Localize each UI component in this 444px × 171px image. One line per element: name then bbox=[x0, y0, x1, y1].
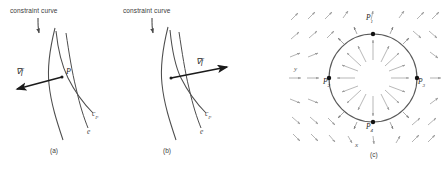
constraint-curve-label-a: constraint curve bbox=[10, 8, 57, 15]
point-label-p3-sub: 3 bbox=[423, 83, 426, 88]
curve-label-e-a: e bbox=[87, 128, 90, 136]
panel-caption-a: (a) bbox=[50, 148, 58, 155]
gradient-label-b: ∇f bbox=[196, 58, 203, 66]
curve-label-e-b: e bbox=[200, 128, 203, 136]
y-axis-label-c: y bbox=[294, 66, 297, 73]
curve-label-cp-b-sub: P bbox=[208, 115, 211, 120]
panel-caption-b: (b) bbox=[163, 148, 171, 155]
point-label-a: P bbox=[66, 68, 71, 76]
point-p-marker-a bbox=[61, 76, 64, 79]
curve-label-cp-a-sub: P bbox=[95, 115, 98, 120]
point-p-marker-b bbox=[170, 77, 173, 80]
point-label-p1: P1 bbox=[366, 14, 373, 24]
panel-caption-c: (c) bbox=[370, 152, 378, 159]
point-label-p2-sub: 2 bbox=[328, 83, 331, 88]
gradient-label-a: ∇f bbox=[16, 68, 23, 76]
curve-label-cp-b: cP bbox=[205, 110, 211, 120]
curve-label-cp-a: cP bbox=[92, 110, 98, 120]
point-label-p3: P3 bbox=[418, 78, 425, 88]
figure-background bbox=[0, 0, 444, 171]
point-label-p4: P4 bbox=[366, 123, 373, 133]
lagrange-multiplier-figure bbox=[0, 0, 444, 171]
point-label-p4-sub: 4 bbox=[371, 128, 374, 133]
critical-point-p1 bbox=[371, 32, 375, 36]
point-label-p2: P2 bbox=[323, 78, 330, 88]
point-label-p1-sub: 1 bbox=[371, 19, 374, 24]
constraint-curve-label-b: constraint curve bbox=[123, 8, 170, 15]
x-axis-label-c: x bbox=[355, 142, 358, 149]
